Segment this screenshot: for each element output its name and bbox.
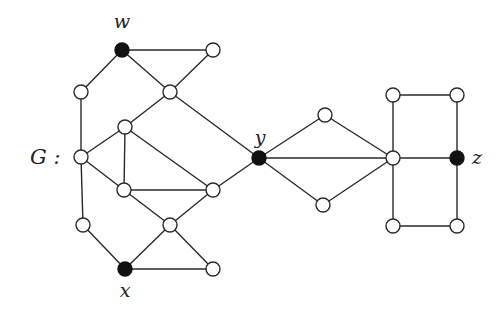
edge-i-j [170, 225, 213, 269]
edge-d-g [125, 127, 213, 190]
edge-l-m [323, 158, 393, 205]
graph-name-label: G : [30, 145, 61, 169]
node-l [316, 198, 330, 212]
edge-y-l [259, 158, 323, 205]
node-label-x: x [120, 279, 131, 301]
node-b [74, 85, 88, 99]
edge-a-c [170, 50, 213, 92]
node-z [450, 151, 464, 165]
node-a [206, 43, 220, 57]
node-p [386, 219, 400, 233]
edge-h-x [83, 225, 125, 269]
edge-d-e [81, 127, 125, 157]
edge-f-i [124, 190, 170, 225]
edge-g-y [213, 158, 259, 190]
node-h [76, 218, 90, 232]
edge-d-f [124, 127, 125, 190]
edge-c-d [125, 92, 170, 127]
node-y [252, 151, 266, 165]
edge-i-x [125, 225, 170, 269]
node-e [74, 150, 88, 164]
edge-g-i [170, 190, 213, 225]
node-i [163, 218, 177, 232]
node-label-y: y [254, 126, 266, 148]
node-k [318, 108, 332, 122]
node-j [206, 262, 220, 276]
graph-nodes [74, 43, 464, 276]
node-label-w: w [114, 10, 130, 32]
node-label-z: z [471, 146, 483, 168]
edge-k-m [325, 115, 393, 158]
node-n [386, 88, 400, 102]
node-f [117, 183, 131, 197]
edge-w-c [122, 50, 170, 92]
node-d [118, 120, 132, 134]
node-c [163, 85, 177, 99]
graph-diagram: wxyz G : [0, 0, 504, 319]
edge-y-k [259, 115, 325, 158]
node-g [206, 183, 220, 197]
edge-c-y [170, 92, 259, 158]
edge-e-f [81, 157, 124, 190]
node-w [115, 43, 129, 57]
graph-labels: wxyz [114, 10, 483, 301]
node-x [118, 262, 132, 276]
edge-e-h [81, 157, 83, 225]
node-m [386, 151, 400, 165]
node-o [450, 88, 464, 102]
graph-edges [81, 50, 457, 269]
edge-w-b [81, 50, 122, 92]
node-q [450, 219, 464, 233]
